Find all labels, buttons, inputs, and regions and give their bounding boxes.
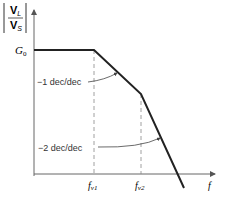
svg-text:VL: VL (10, 4, 21, 17)
fv1-label: fv1 (88, 180, 97, 192)
g0-label: G0 (15, 44, 27, 58)
svg-text:VS: VS (10, 19, 22, 32)
slope2-arrow (98, 138, 160, 147)
slope2-label: −2 dec/dec (38, 143, 83, 153)
fv2-label: fv2 (135, 180, 145, 192)
bode-diagram: VL VS G0 −1 dec/dec −2 dec/dec fv1 fv2 f (0, 0, 226, 200)
slope1-label: −1 dec/dec (37, 77, 82, 87)
slope1-arrow (88, 73, 117, 82)
magnitude-curve (34, 50, 184, 188)
f-axis-label: f (208, 180, 212, 191)
y-axis-label: VL VS (4, 3, 26, 33)
